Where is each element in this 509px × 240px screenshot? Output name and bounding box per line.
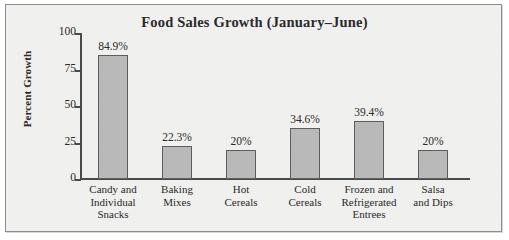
plot-area: 0 25 50 75 100 <box>80 33 472 179</box>
x-category-label-line: Baking <box>141 183 213 196</box>
x-category-label-line: Salsa <box>397 183 469 196</box>
x-axis-line <box>80 178 470 180</box>
bar-value-label: 84.9% <box>87 40 139 52</box>
bar-value-label: 20% <box>215 135 267 147</box>
bar-value-label: 20% <box>407 135 459 147</box>
x-category-label-line: and Dips <box>397 196 469 209</box>
x-category-label: HotCereals <box>205 183 277 208</box>
x-category-label-line: Hot <box>205 183 277 196</box>
chart-screenshot: Food Sales Growth (January–June) Percent… <box>0 0 509 240</box>
bar-baking-mixes[interactable] <box>162 146 192 179</box>
x-category-label-line: Mixes <box>141 196 213 209</box>
x-category-label-line: Individual <box>77 196 149 209</box>
y-tick-label: 25 <box>65 135 77 147</box>
x-category-label-line: Entrees <box>333 208 405 221</box>
x-category-label-line: Cereals <box>269 196 341 209</box>
y-tick-label: 75 <box>65 62 77 74</box>
bar-salsa-and-dips[interactable] <box>418 150 448 179</box>
y-tick-label: 100 <box>59 25 76 37</box>
bar-frozen-and-refrigerated-entrees[interactable] <box>354 121 384 179</box>
x-category-label: ColdCereals <box>269 183 341 208</box>
x-category-label-line: Frozen and <box>333 183 405 196</box>
chart-frame: Food Sales Growth (January–June) Percent… <box>5 4 502 232</box>
bar-value-label: 39.4% <box>343 106 395 118</box>
chart-title: Food Sales Growth (January–June) <box>6 14 503 31</box>
bar-hot-cereals[interactable] <box>226 150 256 179</box>
bar-cold-cereals[interactable] <box>290 128 320 179</box>
y-tick-label: 0 <box>70 171 76 183</box>
x-category-label-line: Refrigerated <box>333 196 405 209</box>
bar-value-label: 34.6% <box>279 113 331 125</box>
y-tick-label: 50 <box>65 98 77 110</box>
x-category-label-line: Candy and <box>77 183 149 196</box>
x-category-label: BakingMixes <box>141 183 213 208</box>
x-category-label-line: Cereals <box>205 196 277 209</box>
x-category-label-line: Cold <box>269 183 341 196</box>
x-category-label: Frozen andRefrigeratedEntrees <box>333 183 405 221</box>
bar-candy-and-individual-snacks[interactable] <box>98 55 128 179</box>
bar-value-label: 22.3% <box>151 131 203 143</box>
x-category-label: Salsaand Dips <box>397 183 469 208</box>
x-category-label: Candy andIndividualSnacks <box>77 183 149 221</box>
y-axis-label: Percent Growth <box>21 44 33 134</box>
x-category-label-line: Snacks <box>77 208 149 221</box>
